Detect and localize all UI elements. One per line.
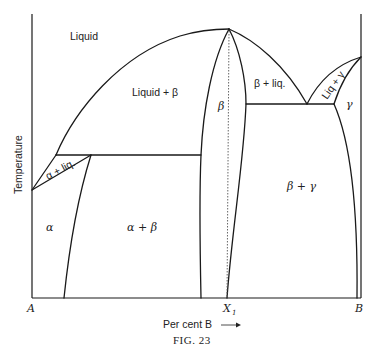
xtick-x1-sub: 1 xyxy=(232,309,236,317)
label-liquid-beta: Liquid + β xyxy=(132,86,178,98)
label-liquid: Liquid xyxy=(70,30,98,42)
xaxis-label: Per cent B xyxy=(163,318,212,330)
figure-caption: FIG. 23 xyxy=(173,334,211,346)
label-alpha-beta: α + β xyxy=(127,221,157,234)
label-alpha: α xyxy=(46,221,54,234)
xaxis-arrowhead-icon xyxy=(236,323,241,328)
label-gamma: γ xyxy=(346,98,353,111)
liquidus-beta-right xyxy=(229,29,307,104)
beta-boundary-right xyxy=(227,29,246,298)
label-beta-liq: β + liq. xyxy=(254,77,285,89)
label-liq-gamma: Liq + γ xyxy=(319,68,347,101)
beta-boundary-left xyxy=(200,29,229,298)
xtick-a: A xyxy=(26,302,35,315)
label-beta: β xyxy=(217,100,224,113)
xtick-b: B xyxy=(354,302,363,315)
label-alpha-liq: α + liq. xyxy=(43,156,76,181)
label-beta-gamma: β + γ xyxy=(286,180,317,193)
alpha-solvus xyxy=(64,155,91,298)
x1-dashed-line xyxy=(227,31,229,298)
gamma-solvus xyxy=(334,104,357,298)
phase-diagram: Liquid Liquid + β α + liq. α α + β β β +… xyxy=(0,0,376,361)
yaxis-label: Temperature xyxy=(12,135,24,194)
xtick-x1: X xyxy=(222,302,232,315)
